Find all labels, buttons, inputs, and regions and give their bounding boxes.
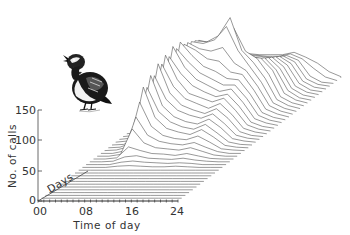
z-axis-title: Days xyxy=(45,170,75,195)
y-tick-label-100: 100 xyxy=(15,134,36,147)
y-tick-label-150: 150 xyxy=(15,104,36,117)
y-axis-title: No. of calls xyxy=(6,124,18,188)
x-axis-title: Time of day xyxy=(72,219,140,231)
waterfall-chart: 150 100 50 0 00 08 16 24 Time of day No.… xyxy=(0,0,350,235)
quail-bird-illustration xyxy=(63,54,112,112)
x-tick-label-08: 08 xyxy=(79,205,93,218)
y-tick-label-50: 50 xyxy=(22,165,36,178)
x-tick-label-24: 24 xyxy=(170,205,184,218)
x-tick-label-00: 00 xyxy=(33,205,47,218)
day-trace xyxy=(82,166,222,168)
x-tick-label-16: 16 xyxy=(125,205,139,218)
